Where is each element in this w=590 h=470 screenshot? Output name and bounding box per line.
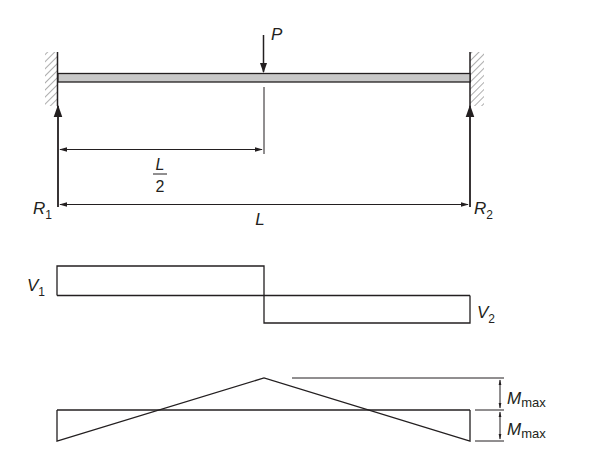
span-label: L <box>255 210 264 229</box>
reaction-right-label: R2 <box>474 199 493 222</box>
left-fixed-support <box>45 52 58 106</box>
reaction-left-label: R1 <box>33 199 52 222</box>
right-fixed-support <box>470 52 484 106</box>
mmax-lower-label: Mmax <box>507 420 546 441</box>
shear-diagram <box>57 266 470 323</box>
beam-diagram: P L 2 L R1 R2 V1 V2 Mmax M <box>0 0 590 470</box>
shear-right-label: V2 <box>477 303 495 326</box>
half-span-denominator: 2 <box>156 178 165 195</box>
moment-diagram <box>57 378 470 441</box>
half-span-numerator: L <box>156 156 165 173</box>
beam <box>58 74 470 83</box>
mmax-upper-label: Mmax <box>507 389 546 410</box>
load-label: P <box>271 25 283 44</box>
shear-left-label: V1 <box>27 276 45 299</box>
